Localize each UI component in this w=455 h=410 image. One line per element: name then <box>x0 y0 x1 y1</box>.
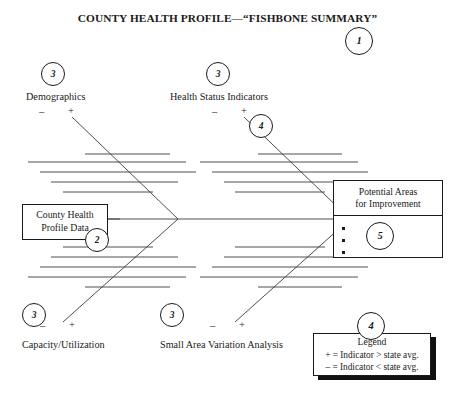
source-box-line-1: County Health <box>36 209 93 222</box>
sign-plus-health-status: + <box>241 105 247 116</box>
callout-circle-3-demographics: 3 <box>41 62 65 86</box>
callout-circle-3-capacity: 3 <box>22 303 46 327</box>
sign-minus-health-status: – <box>212 106 217 117</box>
fishbone-diagram: COUNTY HEALTH PROFILE—“FISHBONE SUMMARY”… <box>0 0 455 410</box>
sign-plus-capacity: + <box>69 319 75 330</box>
callout-circle-3-health-status: 3 <box>206 62 230 86</box>
page-title: COUNTY HEALTH PROFILE—“FISHBONE SUMMARY” <box>0 12 455 24</box>
bullet-icon <box>342 251 345 254</box>
bullet-icon <box>342 227 345 230</box>
bone-label-small-area: Small Area Variation Analysis <box>160 339 283 350</box>
bone-label-demographics: Demographics <box>26 91 85 102</box>
callout-circle-3-small-area: 3 <box>160 303 184 327</box>
sign-minus-small-area: – <box>210 320 215 331</box>
callout-circle-1: 1 <box>345 27 373 55</box>
sign-plus-small-area: + <box>239 319 245 330</box>
source-box-line-2: Profile Data <box>41 222 89 235</box>
bone-label-capacity: Capacity/Utilization <box>22 339 105 350</box>
potential-areas-line-2: for Improvement <box>355 198 420 210</box>
callout-circle-2: 2 <box>85 228 109 252</box>
potential-areas-header: Potential Areas for Improvement <box>334 181 442 216</box>
potential-areas-line-1: Potential Areas <box>359 186 417 198</box>
sign-plus-demographics: + <box>68 105 74 116</box>
legend-row-plus: + = Indicator > state avg. <box>314 349 430 361</box>
callout-circle-4-ribs: 4 <box>249 114 273 138</box>
sign-minus-demographics: – <box>39 106 44 117</box>
legend-row-minus: – = Indicator < state avg. <box>314 361 430 373</box>
bone-label-health-status: Health Status Indicators <box>170 91 268 102</box>
callout-circle-5: 5 <box>366 222 394 250</box>
bullet-icon <box>342 239 345 242</box>
callout-circle-4-legend: 4 <box>357 312 385 340</box>
